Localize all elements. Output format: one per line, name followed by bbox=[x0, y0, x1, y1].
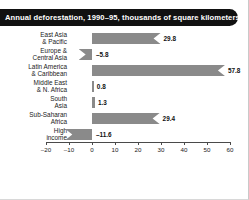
bar-value-label: 1.3 bbox=[98, 97, 107, 108]
tick-label: 30 bbox=[158, 146, 165, 153]
bar bbox=[92, 113, 160, 124]
tick-label: 60 bbox=[227, 146, 234, 153]
tick-label: 10 bbox=[112, 146, 119, 153]
tick-label: 0 bbox=[90, 146, 93, 153]
bar bbox=[79, 49, 92, 60]
tick-label: 50 bbox=[204, 146, 211, 153]
chart-figure: Annual deforestation, 1990–95, thousands… bbox=[0, 0, 249, 200]
chart-title-banner: Annual deforestation, 1990–95, thousands… bbox=[0, 9, 238, 26]
tick-mark bbox=[161, 142, 162, 145]
category-label: South Asia bbox=[1, 95, 67, 109]
bar bbox=[65, 129, 92, 140]
tick-label: –10 bbox=[64, 146, 74, 153]
tick-mark bbox=[230, 142, 231, 145]
bar bbox=[92, 65, 225, 76]
chart-title: Annual deforestation, 1990–95, thousands… bbox=[0, 13, 240, 22]
tick-mark bbox=[207, 142, 208, 145]
tick-mark bbox=[46, 142, 47, 145]
bar-value-label: 29.4 bbox=[163, 113, 175, 124]
category-label: Europe & Central Asia bbox=[1, 47, 67, 61]
plot-area: East Asia & Pacific29.8Europe & Central … bbox=[0, 30, 249, 165]
tick-mark bbox=[138, 142, 139, 145]
tick-mark bbox=[184, 142, 185, 145]
tick-mark bbox=[69, 142, 70, 145]
bar-value-label: 57.8 bbox=[228, 65, 240, 76]
bar bbox=[92, 33, 161, 44]
bar-value-label: –11.6 bbox=[96, 129, 112, 140]
bar bbox=[92, 97, 95, 108]
tick-mark bbox=[115, 142, 116, 145]
bar bbox=[92, 81, 94, 92]
category-label: Sub-Saharan Africa bbox=[1, 111, 67, 125]
tick-label: –20 bbox=[41, 146, 51, 153]
category-label: Middle East & N. Africa bbox=[1, 79, 67, 93]
tick-label: 20 bbox=[135, 146, 142, 153]
category-label: Latin America & Caribbean bbox=[1, 63, 67, 77]
category-label: East Asia & Pacific bbox=[1, 31, 67, 45]
category-label: High income bbox=[1, 127, 67, 141]
bar-value-label: 0.8 bbox=[97, 81, 106, 92]
tick-mark bbox=[92, 142, 93, 145]
bar-value-label: 29.8 bbox=[164, 33, 176, 44]
bar-value-label: –5.8 bbox=[96, 49, 108, 60]
tick-label: 40 bbox=[181, 146, 188, 153]
